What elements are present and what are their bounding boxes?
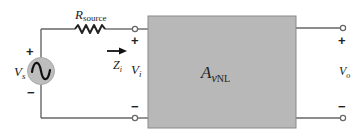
input-terminal-top bbox=[132, 26, 137, 31]
input-plus: + bbox=[131, 33, 139, 48]
input-minus: − bbox=[131, 99, 139, 114]
output-plus: + bbox=[338, 33, 346, 48]
ac-source-icon bbox=[28, 58, 55, 85]
right-arrow-icon bbox=[107, 48, 127, 55]
source-voltage-label: Vs bbox=[14, 64, 26, 81]
output-voltage-label: Vo bbox=[339, 64, 350, 80]
resistor-icon bbox=[75, 25, 105, 33]
circuit-diagram: + − Vs Rsource + − Zi Vi AvNL + − Vo bbox=[0, 0, 364, 134]
input-voltage-label: Vi bbox=[131, 62, 142, 79]
output-terminal-top bbox=[340, 25, 345, 30]
amplifier-block bbox=[148, 16, 296, 128]
output-terminal-bottom bbox=[340, 115, 345, 120]
input-impedance-label: Zi bbox=[113, 58, 122, 74]
source-minus: − bbox=[27, 85, 35, 100]
output-minus: − bbox=[338, 99, 346, 114]
input-terminal-bottom bbox=[132, 115, 137, 120]
resistor-label: Rsource bbox=[74, 7, 106, 23]
source-plus: + bbox=[26, 44, 34, 59]
